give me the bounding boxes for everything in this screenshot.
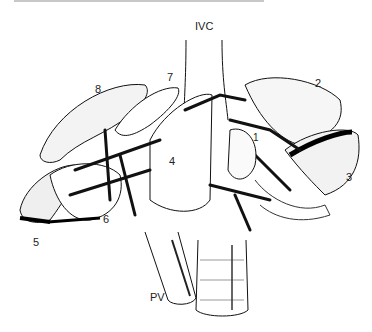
label-segment-5: 5 [33, 237, 39, 248]
label-segment-3: 3 [346, 172, 352, 183]
label-segment-7: 7 [167, 72, 173, 83]
label-ivc: IVC [195, 21, 213, 32]
label-segment-6: 6 [103, 214, 109, 225]
label-pv: PV [150, 292, 165, 303]
label-segment-1: 1 [253, 133, 259, 143]
label-segment-2: 2 [315, 78, 321, 89]
label-segment-4: 4 [169, 156, 175, 167]
segment-1 [228, 129, 256, 179]
liver-segments-illustration [0, 0, 372, 332]
label-segment-8: 8 [95, 84, 101, 95]
